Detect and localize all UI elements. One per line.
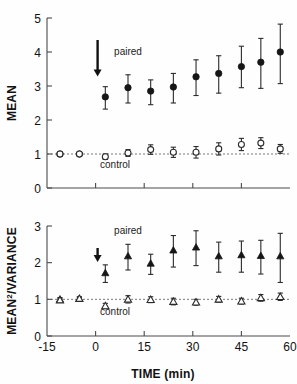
data-point <box>215 242 222 272</box>
data-point <box>170 147 176 157</box>
data-point <box>125 150 131 157</box>
data-point <box>238 138 244 150</box>
data-point <box>216 143 222 155</box>
y-tick-label: 0 <box>34 182 41 196</box>
marker-open-triangle <box>76 295 83 301</box>
y-tick-label: 1 <box>34 148 41 162</box>
arrow-head <box>94 69 102 76</box>
y-tick-label: 5 <box>34 12 41 26</box>
marker-open-triangle <box>124 296 131 302</box>
marker-filled-circle <box>125 85 131 91</box>
y-tick-label: 3 <box>34 80 41 94</box>
data-point <box>257 240 264 274</box>
x-tick-label: 30 <box>186 340 200 354</box>
series-control <box>57 138 283 160</box>
marker-filled-circle <box>102 94 108 100</box>
data-point <box>102 265 109 283</box>
series-control <box>56 293 284 309</box>
arrow-head <box>94 255 102 262</box>
marker-open-circle <box>125 150 131 156</box>
paired-label: paired <box>114 46 142 57</box>
marker-open-circle <box>258 140 264 146</box>
series-paired <box>56 231 284 302</box>
y-axis-title: MEAN2/VARIANCE <box>5 227 20 335</box>
data-point <box>170 73 176 103</box>
data-point <box>102 87 108 109</box>
marker-open-circle <box>238 141 244 147</box>
data-point <box>147 80 153 105</box>
marker-filled-triangle <box>102 269 109 275</box>
stimulus-arrow <box>94 248 102 262</box>
data-point <box>277 293 284 300</box>
marker-filled-triangle <box>257 252 264 258</box>
marker-filled-triangle <box>170 247 177 253</box>
y-axis-title: MEAN <box>5 85 19 121</box>
marker-filled-circle <box>147 88 153 94</box>
data-point <box>193 60 199 96</box>
marker-filled-circle <box>170 84 176 90</box>
panel-mean2-variance: 0123-15015304560MEAN2/VARIANCEpairedcont… <box>5 220 297 355</box>
data-point <box>170 236 177 268</box>
data-point <box>216 56 222 93</box>
marker-filled-circle <box>193 74 199 80</box>
marker-filled-circle <box>238 63 244 69</box>
marker-open-triangle <box>257 294 264 300</box>
x-axis-title: TIME (min) <box>131 367 194 381</box>
data-point <box>277 233 284 282</box>
control-label: control <box>100 159 130 170</box>
data-point <box>257 294 264 301</box>
data-point <box>192 231 199 266</box>
data-point <box>148 145 154 155</box>
x-tick-label: 60 <box>283 340 297 354</box>
control-label: control <box>100 306 130 317</box>
scientific-figure: 012345MEANpairedcontrol 0123-15015304560… <box>0 0 297 384</box>
data-point <box>124 296 131 303</box>
figure-container: 012345MEANpairedcontrol 0123-15015304560… <box>0 0 297 384</box>
x-tick-label: 15 <box>138 340 152 354</box>
marker-open-circle <box>148 147 154 153</box>
marker-open-circle <box>193 149 199 155</box>
data-point <box>193 147 199 159</box>
data-point <box>238 46 244 87</box>
y-tick-label: 2 <box>34 114 41 128</box>
y-tick-label: 3 <box>34 220 41 234</box>
marker-filled-circle <box>216 70 222 76</box>
panel-mean: 012345MEANpairedcontrol <box>5 12 290 196</box>
data-point <box>124 244 131 270</box>
data-point <box>125 75 131 103</box>
data-point <box>238 241 245 272</box>
y-tick-label: 1 <box>34 293 41 307</box>
marker-filled-triangle <box>238 251 245 257</box>
marker-filled-circle <box>277 49 283 55</box>
data-point <box>258 38 264 88</box>
data-point <box>258 138 264 149</box>
marker-open-circle <box>76 151 82 157</box>
x-tick-label: 45 <box>235 340 249 354</box>
data-point <box>238 298 245 305</box>
y-tick-label: 4 <box>34 46 41 60</box>
x-tick-label: -15 <box>38 340 56 354</box>
marker-filled-triangle <box>124 252 131 258</box>
marker-filled-triangle <box>192 244 199 250</box>
marker-open-triangle <box>277 293 284 299</box>
marker-filled-triangle <box>215 252 222 258</box>
marker-open-circle <box>170 149 176 155</box>
data-point <box>147 254 154 274</box>
x-axis-title-group: TIME (min) <box>131 367 194 381</box>
marker-filled-triangle <box>147 260 154 266</box>
marker-open-circle <box>216 146 222 152</box>
data-point <box>277 144 283 153</box>
marker-open-circle <box>57 151 63 157</box>
data-point <box>76 295 83 301</box>
marker-filled-circle <box>258 59 264 65</box>
stimulus-arrow <box>94 40 102 76</box>
marker-open-triangle <box>170 298 177 304</box>
marker-open-circle <box>277 146 283 152</box>
y-tick-label: 2 <box>34 256 41 270</box>
x-tick-label: 0 <box>92 340 99 354</box>
data-point <box>76 151 82 157</box>
data-point <box>277 24 283 84</box>
paired-label: paired <box>114 225 142 236</box>
data-point <box>192 299 199 306</box>
marker-filled-triangle <box>277 252 284 258</box>
